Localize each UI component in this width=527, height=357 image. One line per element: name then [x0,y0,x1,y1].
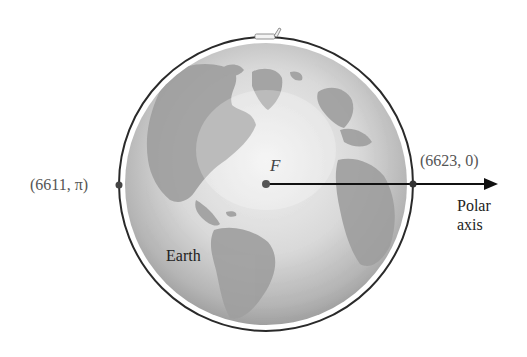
polar-orbit-figure: F (6611, π) (6623, 0) Earth Polar axis [0,0,527,357]
polar-axis-label-line2: axis [457,216,483,234]
right-point-label: (6623, 0) [420,153,479,169]
point-apogee-right [410,181,417,188]
earth-label: Earth [166,248,201,264]
satellite-icon [255,28,281,39]
left-point-label: (6611, π) [30,177,88,193]
focus-point [262,180,270,188]
polar-axis-label-line1: Polar [457,197,491,215]
point-perigee-left [116,182,123,189]
focus-label: F [270,157,280,174]
